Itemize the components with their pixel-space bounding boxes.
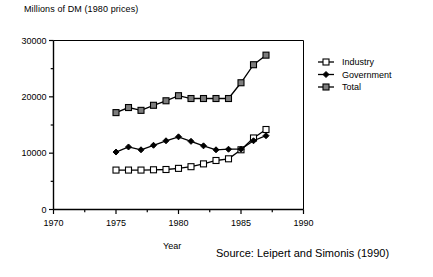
axes-layer: 010000200003000019701975198019851990 <box>21 36 313 228</box>
y-tick-label: 20000 <box>21 92 46 102</box>
chart-canvas: 010000200003000019701975198019851990 Ind… <box>0 0 433 277</box>
x-tick-label: 1990 <box>293 218 313 228</box>
chart-figure: Millions of DM (1980 prices) Year Source… <box>0 0 433 277</box>
x-tick-label: 1970 <box>43 218 63 228</box>
x-tick-label: 1985 <box>231 218 251 228</box>
y-tick-label: 30000 <box>21 36 46 46</box>
x-tick-label: 1980 <box>168 218 188 228</box>
legend-item-total: Total <box>318 82 361 92</box>
legend-layer: IndustryGovernmentTotal <box>318 57 392 92</box>
y-tick-label: 0 <box>41 205 46 215</box>
y-tick-label: 10000 <box>21 148 46 158</box>
legend-item-government: Government <box>318 70 392 80</box>
legend-label: Industry <box>342 57 375 67</box>
legend-label: Total <box>342 82 361 92</box>
legend-label: Government <box>342 70 392 80</box>
x-tick-label: 1975 <box>106 218 126 228</box>
legend-item-industry: Industry <box>318 57 375 67</box>
